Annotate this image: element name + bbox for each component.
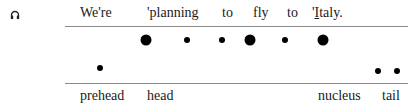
label-nucleus: nucleus <box>318 88 361 104</box>
pitch-dot <box>282 37 288 43</box>
top-pitch-line <box>65 26 408 27</box>
pitch-dot-tail <box>394 68 400 74</box>
pitch-dot <box>219 37 225 43</box>
pitch-dot-prehead <box>97 65 103 71</box>
pitch-dot <box>184 37 190 43</box>
label-tail: tail <box>382 88 400 104</box>
word-to-1: to <box>222 5 233 21</box>
headphones-icon[interactable] <box>10 10 20 20</box>
pitch-dot-stressed <box>245 35 256 46</box>
word-planning: 'planning <box>147 5 199 21</box>
label-prehead: prehead <box>80 88 124 104</box>
word-were: We're <box>80 5 112 21</box>
word-italy-rest: taly. <box>319 5 343 20</box>
word-italy: 'Italy. <box>312 5 343 21</box>
pitch-dot-tail <box>375 68 381 74</box>
pitch-dot-stressed <box>318 35 329 46</box>
word-fly: fly <box>253 5 269 21</box>
label-head: head <box>147 88 173 104</box>
bottom-pitch-line <box>65 83 408 84</box>
word-to-2: to <box>287 5 298 21</box>
pitch-dot-stressed <box>141 35 152 46</box>
